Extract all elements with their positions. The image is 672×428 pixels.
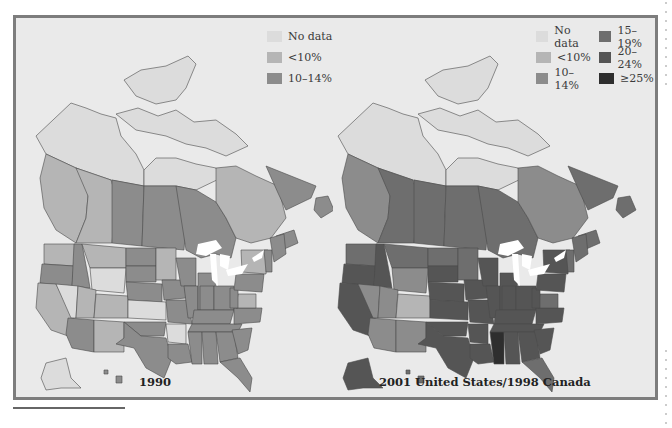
swatch-lt10 bbox=[267, 52, 282, 63]
legend-column-1: No data <10% 10–14% bbox=[536, 26, 591, 89]
legend-column-2: 15–19% 20–24% ≥25% bbox=[599, 26, 654, 89]
footnote-rule bbox=[13, 407, 125, 409]
legend-label: <10% bbox=[288, 51, 322, 64]
swatch-no-data bbox=[267, 31, 282, 42]
swatch-no-data bbox=[536, 31, 548, 42]
legend-item-10-14: 10–14% bbox=[536, 68, 591, 89]
decorative-dots-top bbox=[664, 2, 668, 92]
map-caption: 1990 bbox=[139, 375, 171, 389]
swatch-20-24 bbox=[599, 52, 611, 63]
legend-label: 10–14% bbox=[288, 72, 332, 85]
legend-item-lt10: <10% bbox=[267, 47, 332, 68]
legend-item-10-14: 10–14% bbox=[267, 68, 332, 89]
legend-item-gte25: ≥25% bbox=[599, 68, 654, 89]
swatch-gte25 bbox=[599, 73, 614, 84]
swatch-10-14 bbox=[536, 73, 548, 84]
swatch-10-14 bbox=[267, 73, 282, 84]
legend-label: 20–24% bbox=[617, 45, 653, 71]
legend-label: ≥25% bbox=[620, 72, 654, 85]
legend-label: <10% bbox=[557, 51, 591, 64]
decorative-dots-bottom bbox=[664, 350, 668, 428]
swatch-15-19 bbox=[599, 31, 611, 42]
legend-item-no-data: No data bbox=[267, 26, 332, 47]
legend-label: No data bbox=[288, 30, 332, 43]
legend-label: 10–14% bbox=[554, 66, 590, 92]
legend-1990: No data <10% 10–14% bbox=[267, 26, 332, 89]
map-caption: 2001 United States/1998 Canada bbox=[379, 375, 591, 389]
legend-item-20-24: 20–24% bbox=[599, 47, 654, 68]
map-panel-1990: No data <10% 10–14% 1990 bbox=[13, 15, 337, 400]
legend-item-no-data: No data bbox=[536, 26, 591, 47]
swatch-lt10 bbox=[536, 52, 551, 63]
legend-label: No data bbox=[554, 24, 590, 50]
map-panel-2001: No data <10% 10–14% 15–19% 20–24% ≥ bbox=[333, 15, 658, 400]
